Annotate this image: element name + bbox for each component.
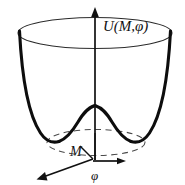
bowl-left-inner-slope [59, 106, 95, 142]
bowl-left-wall [20, 31, 60, 142]
radial-axis-leader-line [80, 146, 93, 159]
potential-figure-container: U(M,φ) M φ [0, 0, 185, 185]
bowl-right-inner-slope [95, 106, 131, 142]
radial-axis-arrowhead-icon [37, 172, 48, 181]
vertical-axis-arrowhead-icon [91, 7, 99, 17]
bowl-right-wall [131, 31, 171, 142]
radial-axis-label: M [69, 144, 83, 159]
vertical-axis-label: U(M,φ) [103, 18, 148, 35]
angular-axis-label: φ [91, 168, 98, 183]
mexican-hat-potential-diagram: U(M,φ) M φ [0, 0, 185, 185]
angular-axis-arrowhead-icon [117, 158, 126, 164]
radial-axis-line [43, 159, 93, 177]
